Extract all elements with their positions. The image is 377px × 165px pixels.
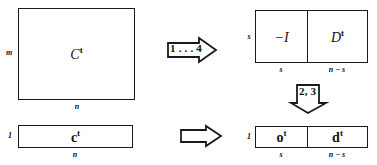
result-vector-right-col-dim: n − s <box>317 150 357 159</box>
source-matrix-cell: Ct <box>19 9 134 99</box>
top-right-arrow-label: 1 . . . 4 <box>170 42 202 54</box>
result-vector-left-superscript: t <box>284 128 287 138</box>
source-vector-row-dim: 1 <box>4 131 16 140</box>
source-vector-superscript: t <box>77 128 80 138</box>
result-vector-box: ot dt <box>255 126 368 148</box>
result-matrix-right-cell: Dt <box>308 11 367 62</box>
source-vector-col-dim: n <box>60 150 90 159</box>
result-vector-right-label: dt <box>332 128 343 146</box>
result-matrix-left-label: −I <box>274 28 288 46</box>
result-matrix-row-dim: s <box>243 32 255 41</box>
result-matrix-right-label: Dt <box>331 28 344 46</box>
source-matrix-row-dim: m <box>2 48 16 57</box>
source-matrix-box: Ct <box>18 8 135 100</box>
result-vector-left-cell: ot <box>256 127 307 147</box>
bottom-right-arrow <box>179 124 223 148</box>
result-vector-right-superscript: t <box>340 128 343 138</box>
diagram-canvas: m Ct n 1 ct n 1 . . . 4 s −I Dt s n − s <box>0 0 377 165</box>
source-matrix-col-dim: n <box>62 102 92 111</box>
result-matrix-left-col-dim: s <box>266 65 296 74</box>
source-matrix-superscript: t <box>80 45 83 55</box>
result-matrix-right-col-dim: n − s <box>317 65 357 74</box>
source-matrix-label: Ct <box>70 45 82 63</box>
result-vector-left-col-dim: s <box>266 150 296 159</box>
result-matrix-box: −I Dt <box>255 10 368 63</box>
down-arrow-label: 2, 3 <box>299 85 316 97</box>
source-vector-box: ct <box>18 125 133 148</box>
top-right-arrow: 1 . . . 4 <box>166 36 218 64</box>
result-vector-row-dim: 1 <box>243 132 255 141</box>
result-matrix-left-cell: −I <box>256 11 307 62</box>
result-matrix-right-superscript: t <box>341 28 344 38</box>
source-vector-label: ct <box>71 128 80 146</box>
down-arrow: 2, 3 <box>289 83 329 115</box>
result-vector-left-label: ot <box>277 128 287 146</box>
result-vector-right-cell: dt <box>308 127 367 147</box>
source-vector-cell: ct <box>19 126 132 147</box>
